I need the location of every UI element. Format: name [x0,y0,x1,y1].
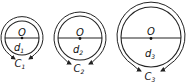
circle-group-2: O d2 C2 [54,12,106,75]
circle-group-3: O d3 C3 [117,2,185,82]
arrow-right-2 [89,59,96,65]
center-label-1: O [18,27,26,38]
center-label-2: O [76,27,84,38]
circles-diagram: O d1 C1 O d2 C2 O d3 C3 [0,0,186,82]
arrow-right-1 [29,55,35,60]
diameter-label-2: d2 [73,44,83,56]
center-label-3: O [147,26,155,37]
circumference-label-1: C1 [15,58,26,70]
diameter-label-3: d3 [145,48,155,60]
arrow-right-3 [161,65,169,71]
circle-group-1: O d1 C1 [1,17,43,70]
circumference-label-3: C3 [145,71,156,82]
center-dot-3 [150,37,153,40]
arrow-left-2 [64,59,71,65]
arrow-left-3 [133,65,141,71]
circumference-label-2: C2 [74,63,85,75]
diameter-label-1: d1 [14,42,24,54]
